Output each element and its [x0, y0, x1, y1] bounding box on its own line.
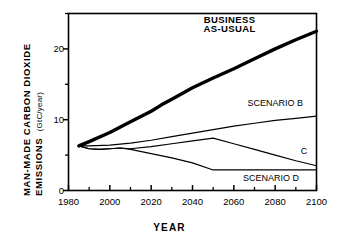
chart-figure: MAN-MADE CARBON DIOXIDE EMISSIONS (GtC/y…	[0, 0, 339, 245]
x-axis-title: YEAR	[0, 222, 339, 233]
x-tick-label: 2040	[173, 197, 213, 207]
annotation-business-as-usual-line2: AS-USUAL	[204, 24, 256, 35]
x-tick-label: 2060	[214, 197, 254, 207]
x-tick-label: 2100	[297, 197, 337, 207]
x-axis-tick-labels: 1980 2000 2020 2040 2060 2080 2100	[0, 0, 339, 245]
x-tick-label: 2000	[90, 197, 130, 207]
x-tick-label: 2080	[255, 197, 295, 207]
x-tick-label: 1980	[49, 197, 89, 207]
x-tick-label: 2020	[131, 197, 171, 207]
annotation-scenario-c: C	[301, 146, 308, 156]
annotation-scenario-d: SCENARIO D	[243, 173, 299, 183]
annotation-scenario-b: SCENARIO B	[247, 98, 303, 108]
